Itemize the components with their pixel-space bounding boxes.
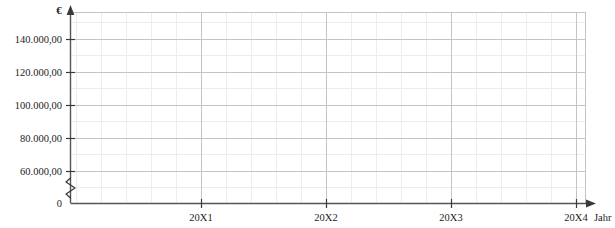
x-tick-label-20x2: 20X2 bbox=[314, 212, 337, 223]
y-tick-label-60000: 60.000,00 bbox=[20, 166, 62, 177]
x-axis-name-label: Jahr bbox=[594, 212, 612, 223]
y-tick-label-80000: 80.000,00 bbox=[20, 133, 62, 144]
chart-background bbox=[0, 0, 615, 228]
y-axis-unit-label: € bbox=[56, 4, 62, 16]
x-tick-label-20x1: 20X1 bbox=[189, 212, 212, 223]
x-tick-label-20x4: 20X4 bbox=[564, 212, 588, 223]
y-tick-label-100000: 100.000,00 bbox=[15, 100, 62, 111]
x-tick-label-20x3: 20X3 bbox=[439, 212, 462, 223]
y-tick-label-140000: 140.000,00 bbox=[15, 34, 62, 45]
chart-container: 140.000,00 120.000,00 100.000,00 80.000,… bbox=[0, 0, 615, 228]
y-tick-label-zero: 0 bbox=[57, 198, 62, 209]
y-tick-label-120000: 120.000,00 bbox=[15, 67, 62, 78]
empty-financial-chart: 140.000,00 120.000,00 100.000,00 80.000,… bbox=[0, 0, 615, 228]
